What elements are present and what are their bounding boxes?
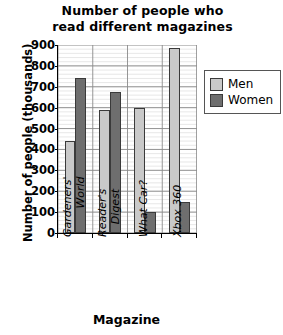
- legend-item: Men: [210, 77, 273, 91]
- x-axis-title: Magazine: [57, 312, 196, 327]
- y-tick-label: 700: [21, 80, 55, 94]
- chart-title-line-2: read different magazines: [30, 19, 255, 35]
- chart-legend: MenWomen: [204, 70, 281, 114]
- y-tick-label: 0: [21, 226, 55, 240]
- bar-chart: Number of people who read different maga…: [0, 0, 283, 335]
- chart-title: Number of people who read different maga…: [30, 3, 255, 35]
- legend-swatch: [210, 78, 223, 91]
- y-tick-label: 100: [21, 205, 55, 219]
- y-tick-label: 200: [21, 184, 55, 198]
- x-category-label-line: Xbox 360: [172, 185, 185, 237]
- x-category-label: Xbox 360: [172, 185, 185, 237]
- legend-label: Women: [228, 93, 273, 107]
- y-tick-label: 300: [21, 163, 55, 177]
- x-category-label: Reader'sDigest: [97, 189, 122, 237]
- x-category-label: Gardeners'World: [62, 176, 87, 237]
- y-tick-label: 800: [21, 59, 55, 73]
- y-tick-label: 900: [21, 38, 55, 52]
- x-category-label: What Car?: [138, 180, 151, 237]
- chart-title-line-1: Number of people who: [30, 3, 255, 19]
- x-category-label-line: Reader's: [97, 189, 110, 237]
- legend-swatch: [210, 94, 223, 107]
- x-tick-mark: [196, 233, 197, 238]
- legend-label: Men: [228, 77, 253, 91]
- x-category-label-line: What Car?: [138, 180, 151, 237]
- x-category-label-line: World: [74, 176, 87, 237]
- x-category-label-line: Digest: [109, 189, 122, 237]
- x-tick-mark: [57, 233, 58, 238]
- legend-item: Women: [210, 93, 273, 107]
- y-tick-label: 500: [21, 122, 55, 136]
- y-axis-ticks: 0100200300400500600700800900: [17, 45, 55, 233]
- y-tick-label: 600: [21, 101, 55, 115]
- y-tick-label: 400: [21, 142, 55, 156]
- x-category-label-line: Gardeners': [62, 176, 75, 237]
- x-tick-mark: [92, 233, 93, 238]
- x-tick-mark: [127, 233, 128, 238]
- x-tick-mark: [161, 233, 162, 238]
